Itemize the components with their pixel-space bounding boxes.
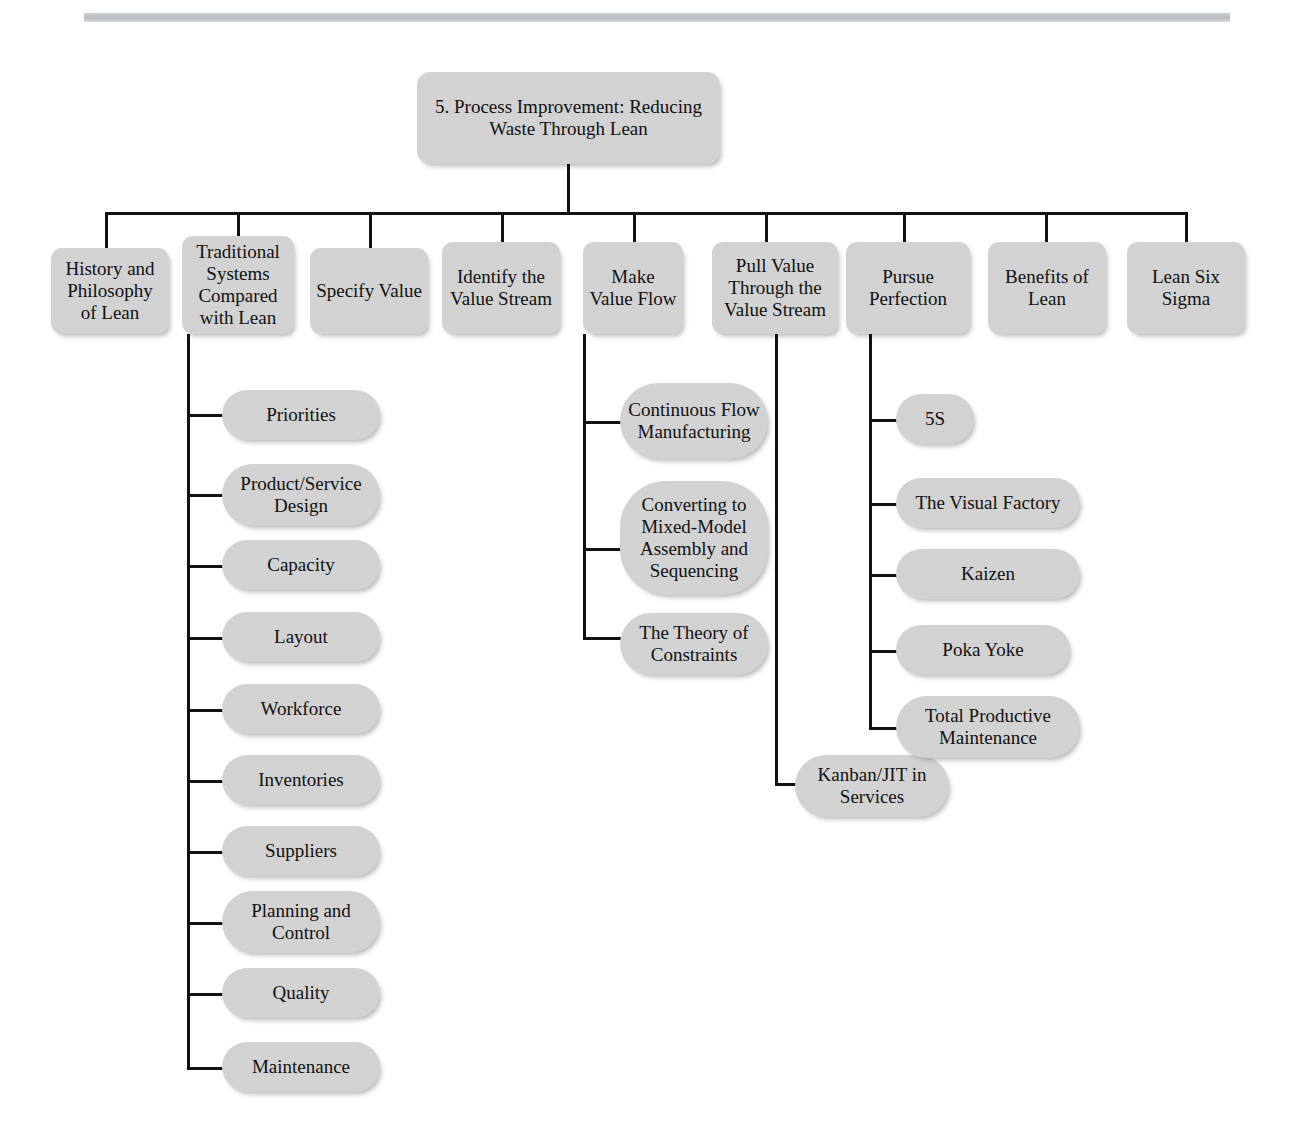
page-running-head [84,0,1230,1]
stub-connector-continuous-flow-manufacturing [583,421,621,424]
node-the-visual-factory[interactable]: The Visual Factory [896,478,1080,528]
node-pull-value-through-the-value-stream[interactable]: Pull Value Through the Value Stream [712,242,838,334]
node-label: Workforce [255,698,348,720]
node-traditional-systems-compared-with-lean[interactable]: Traditional Systems Compared with Lean [182,236,294,334]
node-converting-to-mixed-model-assembly-and-sequencing[interactable]: Converting to Mixed-Model Assembly and S… [620,481,768,595]
node-label: Make Value Flow [583,266,683,310]
node-make-value-flow[interactable]: Make Value Flow [583,242,683,334]
node-kanban-jit-in-services[interactable]: Kanban/JIT in Services [795,755,949,817]
node-label: 5S [919,408,951,430]
node-label: Planning and Control [222,900,380,944]
node-pursue-perfection[interactable]: Pursue Perfection [846,242,970,334]
root-node-label: 5. Process Improvement: Reducing Waste T… [417,96,720,140]
node-benefits-of-lean[interactable]: Benefits of Lean [988,242,1106,334]
node-layout[interactable]: Layout [222,612,380,662]
node-maintenance[interactable]: Maintenance [222,1042,380,1092]
stub-connector-product-service-design [187,494,223,497]
level1-bus-connector [105,212,1185,215]
drop-connector-history [105,212,108,248]
node-continuous-flow-manufacturing[interactable]: Continuous Flow Manufacturing [620,383,768,459]
node-label: Converting to Mixed-Model Assembly and S… [620,494,768,582]
node-label: Capacity [261,554,341,576]
stub-connector-converting-mixed-model [583,548,621,551]
node-workforce[interactable]: Workforce [222,684,380,734]
drop-connector-sixsigma [1185,212,1188,242]
drop-connector-traditional [237,212,240,236]
node-lean-six-sigma[interactable]: Lean Six Sigma [1127,242,1245,334]
stub-connector-suppliers [187,851,223,854]
node-total-productive-maintenance[interactable]: Total Productive Maintenance [896,696,1080,758]
node-label: Product/Service Design [222,473,380,517]
spine-connector-pullvalue [775,334,778,786]
stub-connector-workforce [187,709,223,712]
node-label: Maintenance [246,1056,356,1078]
node-suppliers[interactable]: Suppliers [222,826,380,876]
node-label: The Theory of Constraints [620,622,768,666]
stub-connector-layout [187,637,223,640]
node-kaizen[interactable]: Kaizen [896,549,1080,599]
stub-connector-capacity [187,565,223,568]
header-divider-rule [84,13,1230,22]
spine-connector-pursue [869,334,872,730]
stub-connector-kaizen [869,574,899,577]
spine-connector-traditional [187,334,190,1070]
node-priorities[interactable]: Priorities [222,390,380,440]
node-label: Poka Yoke [936,639,1029,661]
node-label: Quality [267,982,336,1004]
node-label: Inventories [252,769,349,791]
stub-connector-5s [869,419,899,422]
node-label: Kaizen [955,563,1021,585]
node-the-theory-of-constraints[interactable]: The Theory of Constraints [620,613,768,675]
drop-connector-pursue [903,212,906,242]
root-node[interactable]: 5. Process Improvement: Reducing Waste T… [417,72,720,164]
node-label: Pursue Perfection [846,266,970,310]
spine-connector-makeflow [583,334,586,640]
root-stem-connector [567,164,570,212]
drop-connector-benefits [1045,212,1048,242]
node-label: Benefits of Lean [988,266,1106,310]
stub-connector-theory-of-constraints [583,637,621,640]
node-label: Traditional Systems Compared with Lean [182,241,294,329]
stub-connector-total-productive-maintenance [869,727,899,730]
node-planning-and-control[interactable]: Planning and Control [222,891,380,953]
stub-connector-maintenance [187,1067,223,1070]
node-inventories[interactable]: Inventories [222,755,380,805]
node-label: Identify the Value Stream [442,266,560,310]
stub-connector-inventories [187,780,223,783]
node-history-and-philosophy-of-lean[interactable]: History and Philosophy of Lean [51,248,169,334]
drop-connector-specify [369,212,372,248]
node-specify-value[interactable]: Specify Value [310,248,428,334]
node-label: Continuous Flow Manufacturing [620,399,768,443]
node-label: Pull Value Through the Value Stream [712,255,838,321]
node-label: Kanban/JIT in Services [795,764,949,808]
stub-connector-quality [187,993,223,996]
node-label: Lean Six Sigma [1127,266,1245,310]
node-identify-the-value-stream[interactable]: Identify the Value Stream [442,242,560,334]
drop-connector-makeflow [633,212,636,242]
node-capacity[interactable]: Capacity [222,540,380,590]
node-label: Layout [268,626,334,648]
drop-connector-pullvalue [765,212,768,242]
stub-connector-poka-yoke [869,650,899,653]
node-quality[interactable]: Quality [222,968,380,1018]
node-poka-yoke[interactable]: Poka Yoke [896,625,1070,675]
node-label: History and Philosophy of Lean [51,258,169,324]
node-label: Specify Value [310,280,428,302]
org-chart-canvas: 5. Process Improvement: Reducing Waste T… [0,0,1301,1142]
drop-connector-identify [501,212,504,242]
stub-connector-planning-and-control [187,922,223,925]
node-label: The Visual Factory [909,492,1066,514]
node-label: Priorities [260,404,342,426]
node-product-service-design[interactable]: Product/Service Design [222,464,380,526]
node-label: Suppliers [259,840,343,862]
stub-connector-the-visual-factory [869,503,899,506]
node-label: Total Productive Maintenance [896,705,1080,749]
node-5s[interactable]: 5S [896,394,974,444]
stub-connector-priorities [187,414,223,417]
